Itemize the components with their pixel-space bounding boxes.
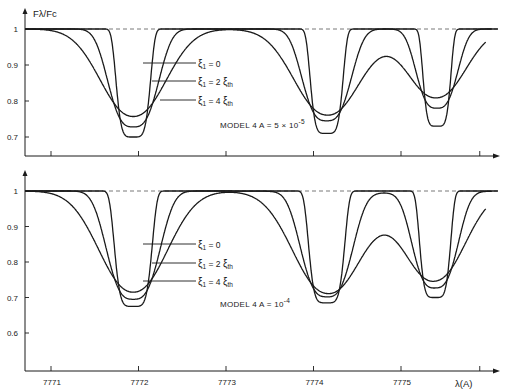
x-tick-label: 7775 [393,378,411,387]
legend-label: ξ1 = 0 [198,239,221,252]
y-tick-label: 0.8 [7,258,19,267]
top-legend: ξ1 = 0ξ1 = 2 ξthξ1 = 4 ξth [143,58,233,108]
top-ylabel: Fλ/Fc [33,8,57,19]
bottom-xlabel: λ(A) [455,378,472,389]
legend-label: ξ1 = 0 [198,58,221,71]
x-tick-label: 7772 [131,378,149,387]
y-tick-label: 0.9 [7,61,19,70]
y-tick-label: 0.6 [7,329,19,338]
profile-curve [25,191,498,306]
x-axis-arrow-icon [493,154,500,159]
x-tick-label: 7771 [43,378,61,387]
profile-curve [25,191,492,299]
x-axis-arrow-icon [493,369,500,374]
y-tick-label: 1 [14,25,19,34]
bottom-model-annotation: MODEL 4 A = 10-4 [220,297,290,309]
y-tick-label: 0.7 [7,294,19,303]
bottom-panel: 10.90.80.70.677717772777377747775 ξ1 = 0… [7,170,500,389]
top-model-annotation: MODEL 4 A = 5 × 10-5 [220,118,305,130]
y-tick-label: 1 [14,187,19,196]
legend-label: ξ1 = 4 ξth [198,276,233,289]
top-panel: 10.90.80.7 ξ1 = 0ξ1 = 2 ξthξ1 = 4 ξth Fλ… [7,8,500,159]
top-axes: 10.90.80.7 [7,8,500,159]
y-axis-arrow-icon [23,170,28,176]
y-tick-label: 0.7 [7,133,19,142]
x-tick-label: 7773 [218,378,236,387]
y-tick-label: 0.8 [7,97,19,106]
x-tick-label: 7774 [306,378,324,387]
bottom-legend: ξ1 = 0ξ1 = 2 ξthξ1 = 4 ξth [143,239,233,289]
legend-label: ξ1 = 4 ξth [198,95,233,108]
y-tick-label: 0.9 [7,223,19,232]
legend-label: ξ1 = 2 ξth [198,258,233,271]
profile-curve [25,29,492,127]
spectral-line-profiles-figure: 10.90.80.7 ξ1 = 0ξ1 = 2 ξthξ1 = 4 ξth Fλ… [0,0,506,392]
legend-label: ξ1 = 2 ξth [198,76,233,89]
y-axis-arrow-icon [23,8,28,14]
bottom-curves [25,191,498,306]
bottom-axes: 10.90.80.70.677717772777377747775 [7,170,500,387]
